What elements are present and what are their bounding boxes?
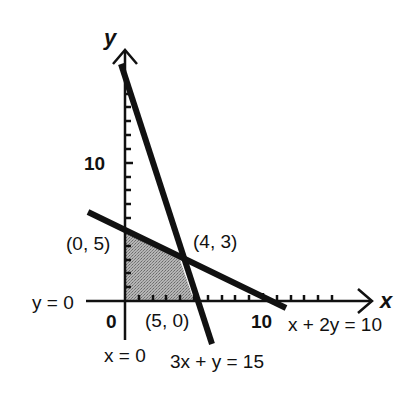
y-eq-0-label: y = 0 bbox=[32, 292, 74, 313]
y-axis-label: y bbox=[103, 25, 118, 50]
lp-diagram: y x 10 10 0 y = 0 x = 0 3x + y = 15 x + … bbox=[0, 0, 417, 408]
line2-equation-label: x + 2y = 10 bbox=[288, 314, 382, 335]
feasible-region bbox=[125, 232, 194, 301]
x-axis-label: x bbox=[379, 288, 393, 313]
line1-equation-label: 3x + y = 15 bbox=[170, 351, 264, 372]
vertex-5-0-label: (5, 0) bbox=[145, 310, 189, 331]
origin-label: 0 bbox=[106, 311, 117, 332]
vertex-0-5-label: (0, 5) bbox=[66, 233, 110, 254]
vertex-4-3-label: (4, 3) bbox=[193, 231, 237, 252]
x-tick-10-label: 10 bbox=[251, 311, 272, 332]
y-tick-10-label: 10 bbox=[84, 153, 105, 174]
x-eq-0-label: x = 0 bbox=[104, 345, 146, 366]
